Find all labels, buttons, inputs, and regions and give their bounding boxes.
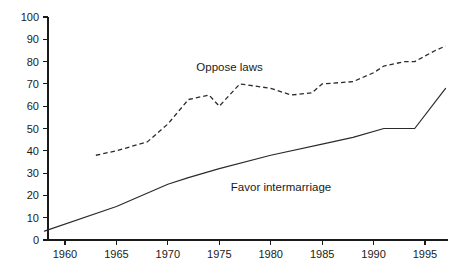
y-axis-ticks: 0102030405060708090100 [21, 11, 48, 246]
y-tick-label: 60 [27, 100, 39, 112]
x-tick-label: 1985 [310, 248, 334, 260]
y-tick-label: 90 [27, 33, 39, 45]
x-tick-label: 1965 [104, 248, 128, 260]
x-axis-ticks: 19601965197019751980198519901995 [53, 240, 437, 260]
x-tick-label: 1980 [258, 248, 282, 260]
y-tick-label: 100 [21, 11, 39, 23]
x-tick-label: 1970 [156, 248, 180, 260]
y-tick-label: 0 [33, 234, 39, 246]
y-tick-label: 70 [27, 78, 39, 90]
x-tick-label: 1975 [207, 248, 231, 260]
x-tick-label: 1960 [53, 248, 77, 260]
chart-container: 0102030405060708090100 19601965197019751… [0, 0, 462, 277]
y-tick-label: 40 [27, 145, 39, 157]
line-chart: 0102030405060708090100 19601965197019751… [0, 0, 462, 277]
series-line-oppose-laws [96, 46, 446, 155]
y-tick-label: 30 [27, 167, 39, 179]
y-tick-label: 10 [27, 212, 39, 224]
series-label-favor-intermarriage: Favor intermarriage [231, 181, 331, 193]
series-annotations: Oppose lawsFavor intermarriage [196, 61, 331, 193]
series-line-favor-intermarriage [44, 88, 445, 231]
x-tick-label: 1990 [361, 248, 385, 260]
y-tick-label: 50 [27, 123, 39, 135]
series-label-oppose-laws: Oppose laws [196, 61, 263, 73]
x-tick-label: 1995 [413, 248, 437, 260]
y-tick-label: 20 [27, 189, 39, 201]
data-series [44, 46, 445, 231]
y-tick-label: 80 [27, 56, 39, 68]
